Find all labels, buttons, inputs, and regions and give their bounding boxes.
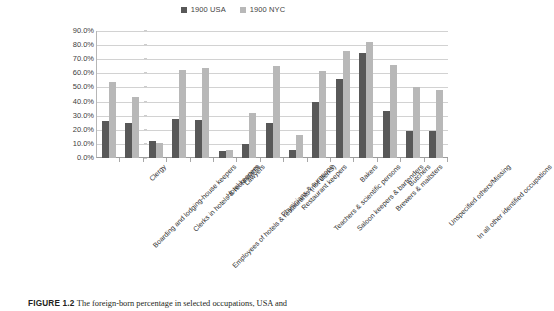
x-axis-category-label: Clergy — [148, 163, 168, 183]
legend-item-nyc: 1900 NYC — [240, 6, 285, 14]
y-axis-tick-label: 40.0% — [73, 98, 94, 106]
figure-caption-text: The foreign-born percentage in selected … — [77, 299, 287, 308]
bar-nyc — [226, 150, 233, 158]
bar-nyc — [390, 65, 397, 158]
bar-nyc — [366, 42, 373, 158]
x-axis-category-label: In all other identified occupations — [476, 163, 554, 241]
bar-usa — [383, 111, 390, 158]
bar-group — [425, 31, 448, 158]
bar-usa — [219, 151, 226, 158]
x-axis-category-label: Boarding and lodging-house keepers — [152, 163, 239, 250]
bar-usa — [312, 102, 319, 158]
bar-usa — [359, 53, 366, 158]
y-axis-tick-label: 30.0% — [73, 112, 94, 120]
bar-nyc — [296, 135, 303, 158]
bar-group — [97, 31, 120, 158]
x-axis-tick — [167, 158, 190, 162]
figure-caption: FIGURE 1.2 The foreign-born percentage i… — [28, 299, 458, 309]
bar-group — [214, 31, 237, 158]
y-axis-tick-label: 60.0% — [73, 69, 94, 77]
y-axis-tick-label: 80.0% — [73, 41, 94, 49]
x-axis-tick — [378, 158, 401, 162]
bar-usa — [406, 131, 413, 158]
figure-number: FIGURE 1.2 — [28, 299, 75, 308]
bar-nyc — [413, 87, 420, 158]
x-axis-tick — [144, 158, 167, 162]
x-axis-tick — [214, 158, 237, 162]
bar-usa — [172, 119, 179, 159]
bar-group — [331, 31, 354, 158]
bar-nyc — [132, 97, 139, 158]
bar-usa — [242, 144, 249, 158]
bar-nyc — [273, 66, 280, 158]
bar-nyc — [319, 71, 326, 158]
x-axis-tick — [284, 158, 307, 162]
x-axis-tick — [308, 158, 331, 162]
x-axis-tick — [401, 158, 424, 162]
y-axis-tick-label: 70.0% — [73, 55, 94, 63]
bar-nyc — [436, 90, 443, 158]
bar-nyc — [249, 113, 256, 158]
y-axis-tick-label: 20.0% — [73, 126, 94, 134]
x-axis-ticks — [97, 158, 448, 162]
bar-nyc — [202, 68, 209, 158]
legend-item-usa: 1900 USA — [181, 6, 226, 14]
bar-groups — [97, 31, 448, 158]
bar-nyc — [156, 143, 163, 158]
legend-label-usa: 1900 USA — [191, 6, 226, 14]
x-axis-tick — [97, 158, 120, 162]
bar-group — [401, 31, 424, 158]
bar-usa — [289, 150, 296, 158]
bar-nyc — [179, 70, 186, 158]
legend-swatch-nyc — [240, 7, 246, 13]
chart-legend: 1900 USA 1900 NYC — [0, 6, 466, 14]
bar-usa — [102, 121, 109, 158]
bar-usa — [125, 123, 132, 158]
y-axis-tick-label: 10.0% — [73, 140, 94, 148]
bar-nyc — [343, 51, 350, 158]
bar-group — [308, 31, 331, 158]
legend-swatch-usa — [181, 7, 187, 13]
bar-group — [120, 31, 143, 158]
bar-nyc — [109, 82, 116, 158]
x-axis-tick — [354, 158, 377, 162]
x-axis-tick — [261, 158, 284, 162]
x-axis-tick — [331, 158, 354, 162]
bar-group — [237, 31, 260, 158]
x-axis-tick — [191, 158, 214, 162]
y-axis-tick-label: 90.0% — [73, 27, 94, 35]
bar-group — [144, 31, 167, 158]
bar-group — [284, 31, 307, 158]
x-axis-tick — [120, 158, 143, 162]
bar-usa — [336, 79, 343, 158]
x-axis-category-label: Bakers — [359, 163, 380, 184]
legend-label-nyc: 1900 NYC — [250, 6, 285, 14]
y-axis-tick-label: 0.0% — [77, 154, 94, 162]
bar-group — [167, 31, 190, 158]
x-axis-tick — [237, 158, 260, 162]
x-axis-category-label: Physicians & surgeons — [280, 163, 336, 219]
bar-group — [378, 31, 401, 158]
bar-usa — [266, 123, 273, 158]
y-axis-labels: 0.0%10.0%20.0%30.0%40.0%50.0%60.0%70.0%8… — [50, 26, 94, 163]
bar-group — [191, 31, 214, 158]
bar-usa — [195, 120, 202, 158]
bar-group — [261, 31, 284, 158]
bar-usa — [429, 131, 436, 158]
bar-group — [354, 31, 377, 158]
bar-usa — [149, 141, 156, 158]
y-axis-tick-label: 50.0% — [73, 83, 94, 91]
x-axis-category-labels: Boarding and lodging-house keepersClergy… — [97, 163, 448, 288]
x-axis-tick — [425, 158, 448, 162]
